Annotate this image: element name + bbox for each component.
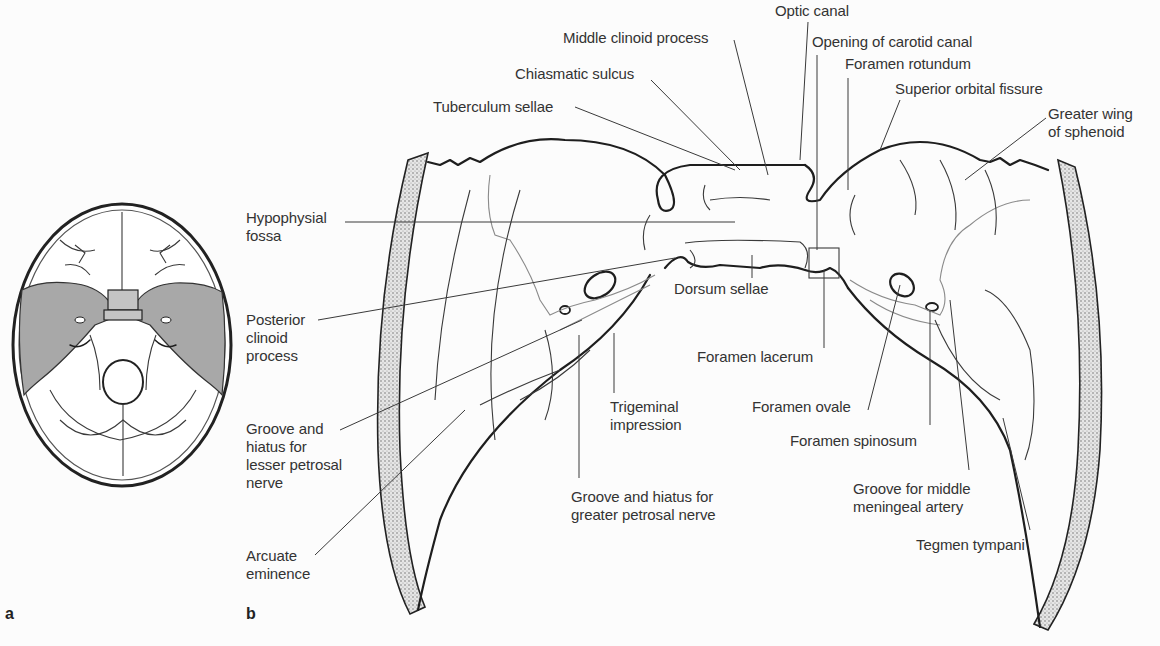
leader-line-optic-canal [800,22,808,160]
label-groove-middle-meningeal-artery: Groove for middle meningeal artery [853,480,971,516]
leader-line-middle-clinoid-process [734,40,768,175]
label-foramen-spinosum: Foramen spinosum [790,432,917,450]
label-chiasmatic-sulcus: Chiasmatic sulcus [515,65,634,83]
figure: Optic canal Middle clinoid process Openi… [0,0,1160,646]
leader-line-superior-orbital-fissure [880,100,900,150]
label-posterior-clinoid-process: Posterior clinoid process [246,311,305,365]
leader-line-chiasmatic-sulcus [651,80,740,170]
label-hypophysial-fossa: Hypophysial fossa [246,209,327,245]
leader-line-tuberculum-sellae [575,107,735,170]
panel-b-middle-cranial-fossa [378,139,1102,630]
label-middle-clinoid-process: Middle clinoid process [563,29,708,47]
label-tuberculum-sellae: Tuberculum sellae [433,98,553,116]
panel-letter-b: b [246,605,256,623]
label-dorsum-sellae: Dorsum sellae [674,280,769,298]
label-greater-wing-of-sphenoid: Greater wing of sphenoid [1048,105,1133,141]
label-trigeminal-impression: Trigeminal impression [610,398,682,434]
label-foramen-ovale: Foramen ovale [752,398,851,416]
label-foramen-rotundum: Foramen rotundum [845,55,971,73]
label-tegmen-tympani: Tegmen tympani [916,536,1025,554]
leader-line-greater-wing-of-sphenoid [965,118,1046,180]
panel-letter-a: a [5,605,14,623]
label-groove-hiatus-lesser-petrosal: Groove and hiatus for lesser petrosal ne… [246,420,342,492]
label-foramen-lacerum: Foramen lacerum [697,348,813,366]
leader-line-posterior-clinoid-process [318,258,675,320]
label-superior-orbital-fissure: Superior orbital fissure [895,80,1043,98]
panel-a-skull-inset [13,204,231,486]
label-arcuate-eminence: Arcuate eminence [246,547,310,583]
label-groove-hiatus-greater-petrosal: Groove and hiatus for greater petrosal n… [571,488,716,524]
label-opening-of-carotid-canal: Opening of carotid canal [812,33,972,51]
leader-line-foramen-ovale [868,285,900,410]
label-optic-canal: Optic canal [775,2,849,20]
leader-line-tegmen-tympani [1003,418,1030,530]
